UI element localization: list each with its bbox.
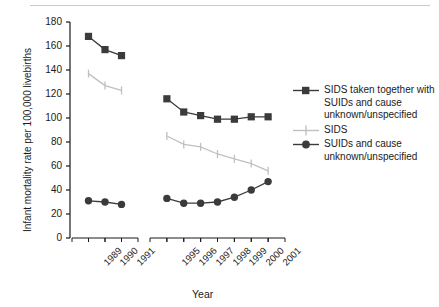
data-point	[85, 33, 92, 40]
y-tick-label: 120	[36, 89, 62, 99]
legend-label: SIDS	[324, 124, 438, 137]
data-point	[264, 178, 271, 185]
legend-label: SUIDs and cause unknown/unspecified	[324, 138, 438, 163]
legend-item-suids: SUIDs and cause unknown/unspecified	[292, 138, 438, 163]
y-tick-label: 20	[36, 209, 62, 219]
data-point	[180, 200, 187, 207]
chart-figure: Infant mortality rate per 100,000 livebi…	[0, 0, 439, 307]
data-point	[118, 201, 125, 208]
chart-legend: SIDS taken together with SUIDs and cause…	[292, 84, 438, 165]
data-point	[101, 46, 108, 53]
data-point	[101, 198, 108, 205]
series-square	[163, 95, 271, 123]
data-point	[118, 52, 125, 59]
y-tick-label: 160	[36, 41, 62, 51]
data-point	[248, 113, 255, 120]
series-errorbar	[89, 70, 122, 95]
y-tick-label: 80	[36, 137, 62, 147]
data-point	[180, 108, 187, 115]
y-tick-label: 0	[36, 233, 62, 243]
legend-item-sids: SIDS	[292, 124, 438, 137]
data-point	[85, 197, 92, 204]
square-marker-key	[292, 84, 320, 97]
circle-marker-key	[292, 138, 320, 151]
series-circle	[85, 197, 125, 208]
series-errorbar	[167, 132, 268, 175]
legend-item-sids-together: SIDS taken together with SUIDs and cause…	[292, 84, 438, 122]
data-point	[214, 116, 221, 123]
data-point	[197, 112, 204, 119]
data-point	[231, 116, 238, 123]
data-point	[163, 95, 170, 102]
data-point	[163, 195, 170, 202]
legend-label: SIDS taken together with SUIDs and cause…	[324, 84, 438, 122]
data-point	[265, 113, 272, 120]
y-tick-label: 40	[36, 185, 62, 195]
data-point	[248, 186, 255, 193]
errorbar-marker-key	[292, 124, 320, 137]
y-tick-label: 100	[36, 113, 62, 123]
data-point	[214, 198, 221, 205]
series-circle	[163, 178, 272, 207]
y-tick-label: 140	[36, 65, 62, 75]
data-point	[231, 194, 238, 201]
data-point	[197, 200, 204, 207]
series-square	[85, 33, 125, 59]
y-tick-label: 60	[36, 161, 62, 171]
y-tick-label: 180	[36, 17, 62, 27]
